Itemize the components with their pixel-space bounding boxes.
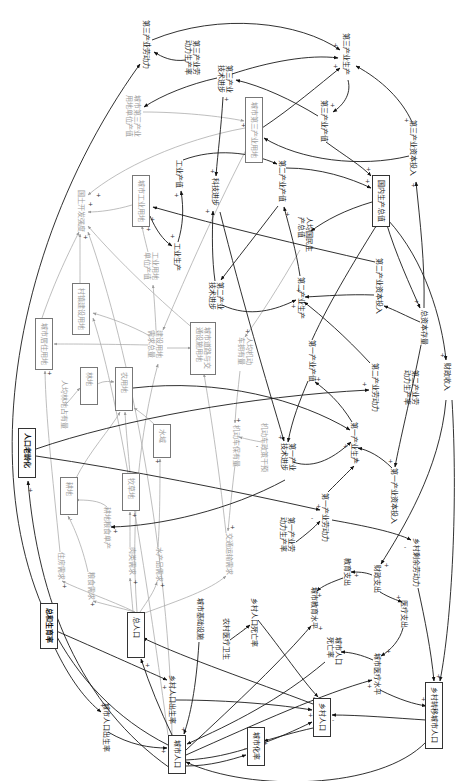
node-tertiary-production: 第三产业生产 (342, 33, 350, 77)
svg-text:+: + (113, 527, 118, 534)
node-industrial-output-value: 工业产值 (175, 160, 183, 190)
node-tertiary-tech-progress: 第三产业技术进步 (217, 65, 233, 94)
node-vehicles-per-capita: 人均机动车拥有量 (237, 337, 253, 366)
node-grassland: 牧草地 (122, 473, 140, 511)
svg-text:+: + (411, 181, 416, 188)
diagram-links: + + + + + + + + + + + + + + + + + + + + … (0, 0, 461, 781)
svg-text:+: + (367, 682, 372, 689)
node-urban-industrial-land: 城市工业用地 (132, 175, 150, 227)
svg-text:+: + (181, 725, 186, 732)
black-links (12, 23, 454, 781)
node-urban-infrastructure: 城市基础设施 (196, 598, 204, 642)
svg-text:+: + (161, 747, 166, 754)
svg-text:-: - (244, 624, 246, 631)
node-secondary-production: 第二产业生产 (297, 277, 305, 321)
node-grain-demand: 粮食需求 (87, 572, 95, 602)
node-gdp: 国内生产总值 (372, 175, 390, 227)
node-water-area: 水域 (153, 424, 171, 458)
node-sci-tech-progress: 科技进步 (211, 178, 219, 208)
svg-text:+: + (440, 351, 445, 358)
node-secondary-output-value: 第二产业产值 (278, 160, 286, 204)
node-urbanization-rate: 城市化率 (247, 727, 265, 766)
node-urban-education-level: 城市教育水平 (310, 587, 318, 631)
svg-text:+: + (354, 571, 359, 578)
node-fiscal-revenue: 财政收入 (443, 363, 451, 393)
node-aquatic-demand: 水产品需求 (155, 547, 163, 584)
node-housing-demand: 住房需求 (57, 552, 65, 582)
svg-text:+: + (245, 327, 250, 334)
node-total-fertility-rate: 总和生育率 (40, 603, 58, 649)
svg-text:+: + (316, 375, 321, 382)
svg-text:+: + (28, 486, 33, 493)
node-forest-per-capita: 人均林地占有量 (60, 380, 68, 431)
svg-text:+: + (333, 41, 338, 48)
node-secondary-labor-productivity: 第二产业劳动力生产率 (403, 370, 419, 406)
svg-text:+: + (362, 380, 367, 387)
svg-text:+: + (133, 578, 138, 585)
node-fiscal-expenditure: 财政支出 (373, 565, 381, 595)
causal-loop-diagram: + + + + + + + + + + + + + + + + + + + + … (0, 0, 461, 781)
node-urban-death-rate: 城市人口死亡率 (326, 637, 342, 666)
node-primary-output-value: 第一产业产值 (308, 340, 316, 384)
svg-text:+: + (436, 672, 441, 679)
svg-text:+: + (414, 297, 419, 304)
node-land-development-intensity: 国土开发强度 (77, 190, 85, 234)
svg-text:+: + (224, 95, 229, 102)
svg-text:+: + (278, 433, 283, 440)
node-meat-demand: 肉类需求 (128, 547, 136, 577)
svg-text:+: + (145, 661, 150, 668)
node-secondary-tech-progress: 第二产业技术进步 (208, 282, 224, 311)
node-village-construction-land: 村镇建设用地 (72, 283, 90, 335)
node-grain-yield-per-area: 耕地粮食单产 (103, 507, 111, 551)
node-tertiary-labor-productivity: 第三产业劳动力生产率 (184, 40, 200, 76)
svg-text:+: + (230, 523, 235, 530)
svg-text:+: + (318, 624, 323, 631)
svg-text:-: - (256, 442, 258, 449)
node-urban-tertiary-land: 城市第三产业用地 (245, 97, 263, 163)
svg-text:+: + (150, 215, 155, 222)
svg-text:+: + (343, 442, 348, 449)
node-industrial-production: 工业生产 (173, 243, 181, 273)
node-rural-healthcare: 农村医疗卫生 (222, 618, 230, 662)
node-urban-birth-rate: 城市人口出生率 (102, 703, 110, 754)
node-tertiary-capital-input: 第三产业资本投入 (409, 120, 417, 178)
node-tertiary-output-value: 第三产业产值 (320, 100, 328, 144)
svg-text:+: + (291, 302, 296, 309)
svg-text:+: + (88, 200, 93, 207)
svg-text:+: + (170, 232, 175, 239)
node-rural-population: 乡村人口 (313, 698, 331, 737)
node-education-expenditure: 教育支出 (343, 558, 351, 588)
svg-text:+: + (162, 683, 167, 690)
node-rural-surplus-labor: 乡村剩余劳动力 (412, 538, 420, 589)
svg-text:+: + (62, 582, 67, 589)
svg-text:+: + (386, 647, 391, 654)
node-primary-labor: 第一产业劳动力 (321, 493, 329, 544)
node-urban-population: 城市人口 (168, 735, 186, 774)
svg-text:+: + (285, 210, 290, 217)
node-primary-capital-input: 第一产业资本投入 (390, 468, 398, 526)
node-cultivated-land: 耕地 (60, 477, 78, 515)
svg-text:+: + (388, 457, 393, 464)
svg-text:+: + (333, 62, 338, 69)
node-rural-death-rate: 乡村人口死亡率 (250, 598, 258, 649)
svg-text:+: + (236, 416, 241, 423)
node-gnp-per-capita: 人均国民生产总值 (297, 217, 313, 253)
svg-text:-: - (332, 716, 334, 723)
node-rural-birth-rate: 乡村人口出生率 (168, 675, 176, 726)
node-construction-land-demand: 建设用地需求总量 (147, 330, 163, 359)
svg-text:+: + (132, 511, 137, 518)
node-total-capital-stock: 总资本存量 (420, 310, 428, 347)
node-agricultural-land: 农用地 (115, 367, 133, 411)
svg-text:+: + (83, 233, 88, 240)
svg-text:+: + (205, 207, 210, 214)
node-secondary-labor: 第二产业劳动力 (371, 363, 379, 414)
svg-text:+: + (366, 165, 371, 172)
svg-text:-: - (311, 514, 313, 521)
node-industrial-land-unit-output: 工业用地单位产值 (143, 252, 159, 281)
svg-text:-: - (404, 543, 406, 550)
svg-text:+: + (384, 561, 389, 568)
node-tertiary-industry-labor: 第三产业劳动力 (142, 20, 150, 70)
node-primary-labor-productivity: 第一产业劳动力生产率 (279, 517, 295, 553)
node-total-population: 总人口 (127, 612, 145, 658)
node-urban-residential-land: 城市居住用地 (35, 318, 53, 370)
